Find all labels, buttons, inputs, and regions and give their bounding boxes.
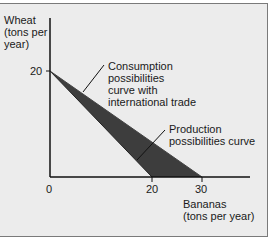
y-tick-label-20: 20: [30, 65, 42, 77]
y-axis-label: Wheat (tons per year): [4, 14, 47, 50]
consumption-leader-line: [83, 65, 104, 92]
x-tick-label-0: 0: [46, 183, 52, 195]
x-tick-label-20: 20: [146, 183, 158, 195]
x-axis-label: Bananas (tons per year): [183, 198, 255, 222]
production-annotation: Production possibilities curve: [169, 123, 255, 147]
consumption-annotation: Consumption possibilities curve with int…: [108, 60, 196, 108]
x-tick-label-30: 30: [195, 183, 207, 195]
